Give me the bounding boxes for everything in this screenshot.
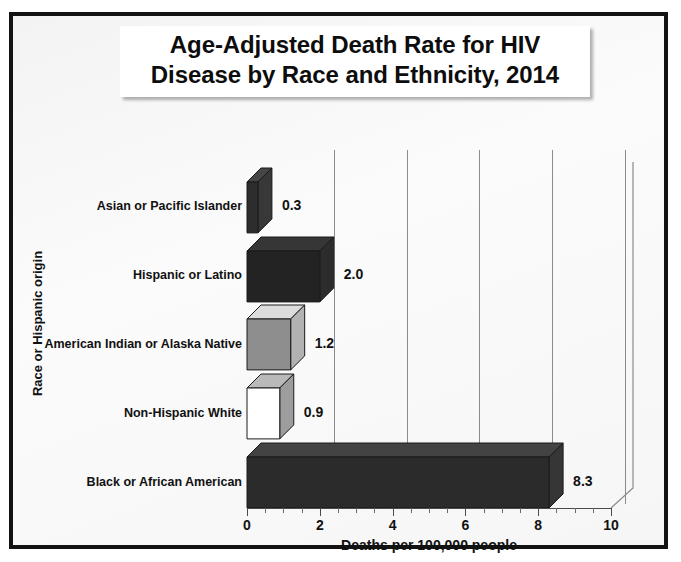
- x-tick-label-6: 6: [461, 517, 469, 533]
- x-tick-3: [356, 508, 357, 513]
- bar-0[interactable]: [247, 168, 274, 235]
- x-tick-5: [429, 508, 430, 513]
- x-tick-label-4: 4: [389, 517, 397, 533]
- y-axis-title: Race or Hispanic origin: [30, 234, 45, 414]
- slide-canvas: Age-Adjusted Death Rate for HIV Disease …: [0, 0, 681, 562]
- x-tick-7.5: [520, 508, 521, 513]
- category-label-4: Black or African American: [0, 475, 242, 489]
- bar-value-label-1: 2.0: [344, 266, 363, 282]
- bar-1[interactable]: [247, 237, 336, 304]
- bar-4[interactable]: [247, 443, 565, 510]
- bar-2[interactable]: [247, 305, 307, 372]
- x-tick-4: [393, 508, 394, 516]
- chart-frame: Age-Adjusted Death Rate for HIV Disease …: [9, 12, 668, 549]
- x-tick-label-10: 10: [603, 517, 619, 533]
- bar-3[interactable]: [247, 374, 296, 441]
- bar-value-label-3: 0.9: [304, 404, 323, 420]
- x-tick-6.5: [484, 508, 485, 513]
- x-tick-label-8: 8: [534, 517, 542, 533]
- x-tick-9: [575, 508, 576, 513]
- x-tick-1: [283, 508, 284, 513]
- bar-value-label-0: 0.3: [282, 197, 301, 213]
- x-tick-8: [538, 508, 539, 516]
- x-tick-label-2: 2: [316, 517, 324, 533]
- category-label-0: Asian or Pacific Islander: [0, 199, 242, 213]
- x-tick-8.5: [556, 508, 557, 513]
- x-tick-0.5: [265, 508, 266, 513]
- gridline-10: [625, 150, 626, 504]
- x-tick-3.5: [374, 508, 375, 513]
- x-tick-0: [247, 508, 248, 516]
- x-tick-1.5: [302, 508, 303, 513]
- x-tick-9.5: [593, 508, 594, 513]
- x-tick-6: [465, 508, 466, 516]
- bar-value-label-4: 8.3: [573, 473, 592, 489]
- plot-area: 0.32.01.20.98.3 Asian or Pacific Islande…: [13, 16, 672, 545]
- x-tick-10: [611, 508, 612, 516]
- x-axis-title: Deaths per 100,000 people: [247, 537, 611, 553]
- x-tick-4.5: [411, 508, 412, 513]
- x-tick-2: [320, 508, 321, 516]
- x-tick-5.5: [447, 508, 448, 513]
- x-tick-2.5: [338, 508, 339, 513]
- bar-value-label-2: 1.2: [315, 335, 334, 351]
- x-tick-label-0: 0: [243, 517, 251, 533]
- x-tick-7: [502, 508, 503, 513]
